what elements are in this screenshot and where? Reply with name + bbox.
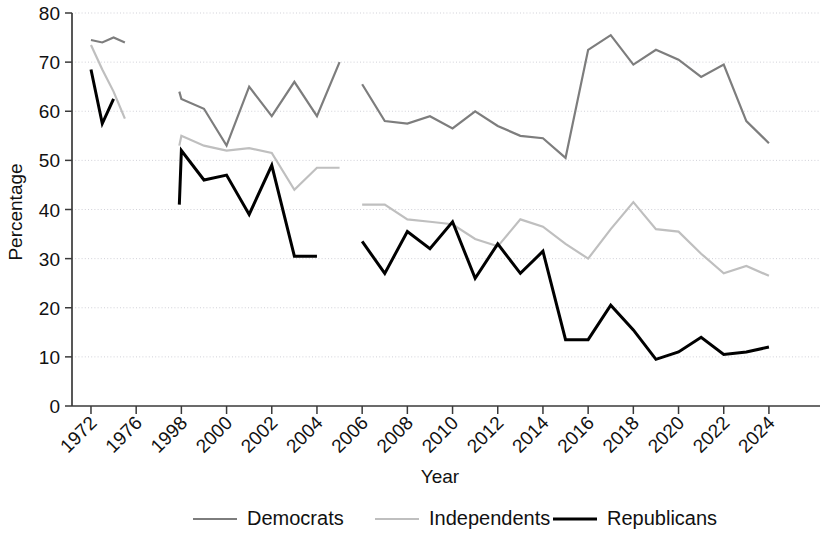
series-group (91, 35, 769, 359)
legend: DemocratsIndependentsRepublicans (193, 507, 717, 529)
y-tick-label: 60 (39, 101, 60, 122)
y-tick-label: 0 (49, 396, 60, 417)
chart-canvas: 01020304050607080 1972197619982000200220… (0, 0, 825, 533)
legend-label-republicans: Republicans (607, 507, 717, 529)
x-axis-title: Year (421, 466, 460, 487)
series-republicans (91, 69, 769, 359)
x-tick-label: 2020 (644, 412, 689, 457)
x-tick-label: 1972 (56, 412, 101, 457)
x-tick-label: 2012 (463, 412, 508, 457)
series-line-republicans-segment-0 (91, 69, 114, 123)
series-line-independents-segment-0 (91, 45, 125, 119)
y-tick-label: 30 (39, 249, 60, 270)
legend-label-independents: Independents (429, 507, 550, 529)
x-tick-label: 2014 (508, 412, 553, 457)
y-tick-label: 20 (39, 298, 60, 319)
legend-label-democrats: Democrats (247, 507, 344, 529)
series-line-democrats-segment-0 (91, 38, 125, 43)
y-tick-label: 40 (39, 200, 60, 221)
y-axis-group: 01020304050607080 (39, 3, 72, 417)
x-tick-label: 2004 (282, 412, 327, 457)
series-line-republicans-segment-1 (179, 151, 317, 257)
line-chart-figure: 01020304050607080 1972197619982000200220… (0, 0, 825, 533)
x-tick-label: 2000 (192, 412, 237, 457)
x-tick-label: 1976 (101, 412, 146, 457)
x-tick-label: 2022 (689, 412, 734, 457)
x-tick-label: 2002 (237, 412, 282, 457)
series-line-independents-segment-2 (362, 202, 769, 276)
x-axis-group: 1972197619982000200220042006200820102012… (56, 406, 820, 457)
x-tick-label: 2008 (372, 412, 417, 457)
series-line-democrats-segment-2 (362, 35, 769, 158)
gridlines-group (72, 13, 820, 357)
y-axis-title: Percentage (5, 163, 26, 260)
x-tick-label: 2006 (327, 412, 372, 457)
y-tick-label: 10 (39, 347, 60, 368)
x-tick-label: 2018 (598, 412, 643, 457)
series-democrats (91, 35, 769, 158)
x-tick-label: 2010 (418, 412, 463, 457)
x-tick-label: 1998 (146, 412, 191, 457)
series-line-democrats-segment-1 (179, 62, 339, 146)
y-tick-label: 80 (39, 3, 60, 24)
x-tick-label: 2024 (734, 412, 779, 457)
x-tick-label: 2016 (553, 412, 598, 457)
series-line-independents-segment-1 (179, 136, 339, 190)
series-line-republicans-segment-2 (362, 222, 769, 360)
y-tick-label: 70 (39, 52, 60, 73)
y-tick-label: 50 (39, 150, 60, 171)
